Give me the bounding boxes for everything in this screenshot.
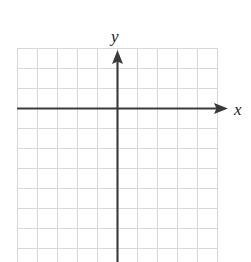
graph-svg: x y [0,0,251,262]
axes [17,50,228,262]
y-axis-label: y [109,27,119,46]
coordinate-plane-figure: x y [0,0,251,262]
x-axis-label: x [233,100,242,119]
